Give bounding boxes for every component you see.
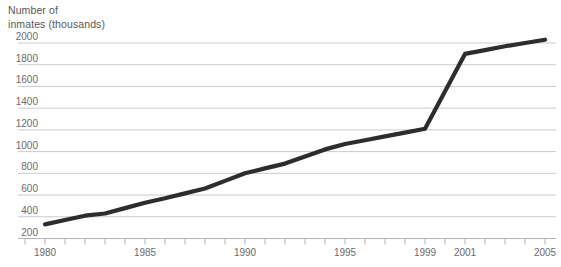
y-axis-tick-label: 400 <box>21 205 38 216</box>
y-axis-tick-label: 1000 <box>16 140 39 151</box>
x-axis-tick-label: 1990 <box>234 247 257 258</box>
x-axis-tick-label: 1999 <box>414 247 437 258</box>
plot-area: 2004006008001000120014001600180020001980… <box>0 0 561 267</box>
y-axis-tick-label: 600 <box>21 183 38 194</box>
x-axis-tick-label: 1985 <box>134 247 157 258</box>
x-axis-tick-label: 1980 <box>34 247 57 258</box>
inmates-data-line <box>45 40 545 225</box>
x-axis-tick-label: 2001 <box>454 247 477 258</box>
y-axis-tick-label: 200 <box>21 227 38 238</box>
inmates-line-chart: Number of inmates (thousands) 2004006008… <box>0 0 561 267</box>
y-axis-tick-label: 1800 <box>16 53 39 64</box>
y-axis-tick-label: 1400 <box>16 96 39 107</box>
x-axis-tick-label: 1995 <box>334 247 357 258</box>
y-axis-tick-label: 800 <box>21 161 38 172</box>
y-axis-tick-label: 1600 <box>16 74 39 85</box>
y-axis-tick-label: 2000 <box>16 31 39 42</box>
x-axis-tick-label: 2005 <box>534 247 557 258</box>
y-axis-tick-label: 1200 <box>16 118 39 129</box>
